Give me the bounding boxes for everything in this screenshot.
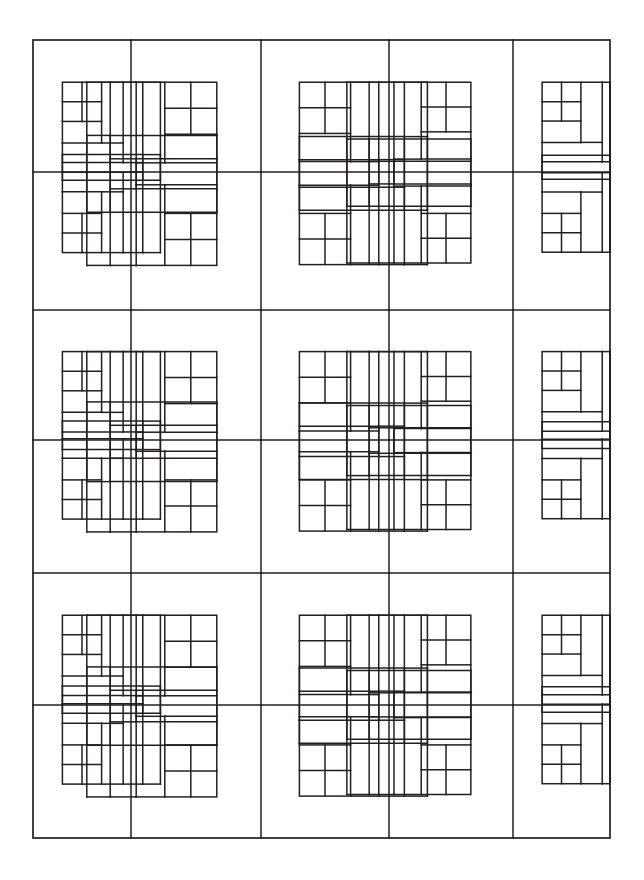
quilt-pattern-canvas — [0, 0, 644, 880]
